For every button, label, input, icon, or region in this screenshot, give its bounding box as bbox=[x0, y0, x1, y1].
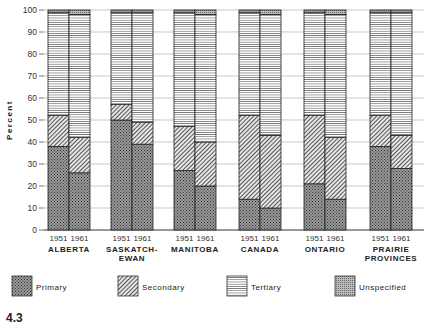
group-label: ALBERTA bbox=[48, 245, 90, 254]
year-label: 1961 bbox=[327, 234, 345, 243]
bar-segment-tertiary bbox=[69, 14, 90, 137]
bar-segment-primary bbox=[391, 168, 412, 230]
bar-segment-secondary bbox=[239, 116, 260, 200]
stacked-bar-chart: 0102030405060708090100 19511961ALBERTA19… bbox=[0, 0, 426, 327]
y-tick-label: 30 bbox=[28, 159, 38, 169]
bar-segment-primary bbox=[370, 146, 391, 230]
bar-segment-secondary bbox=[391, 135, 412, 168]
bar-segment-unspecified bbox=[69, 10, 90, 14]
group-label: MANITOBA bbox=[171, 245, 219, 254]
bar-segment-secondary bbox=[174, 127, 195, 171]
bar-segment-unspecified bbox=[304, 10, 325, 12]
figure-label: 4.3 bbox=[6, 311, 23, 325]
bar-segment-primary bbox=[111, 120, 132, 230]
group-label: SASKATCH- bbox=[106, 245, 158, 254]
bar-segment-primary bbox=[304, 184, 325, 230]
legend-swatch-secondary bbox=[118, 276, 138, 296]
bar-segment-primary bbox=[69, 173, 90, 230]
bar-segment-tertiary bbox=[111, 12, 132, 104]
legend-swatch-unspecified bbox=[335, 276, 355, 296]
legend-swatch-primary bbox=[12, 276, 32, 296]
bar-segment-tertiary bbox=[174, 12, 195, 126]
group-label: EWAN bbox=[119, 254, 145, 263]
bar-segment-secondary bbox=[48, 116, 69, 147]
bar-segment-primary bbox=[325, 199, 346, 230]
legend-label: Tertiary bbox=[251, 283, 281, 292]
year-label: 1951 bbox=[241, 234, 259, 243]
bar-segment-primary bbox=[239, 199, 260, 230]
bar-segment-tertiary bbox=[132, 12, 153, 122]
bar-segment-primary bbox=[48, 146, 69, 230]
bar-segment-unspecified bbox=[111, 10, 132, 12]
y-tick-label: 40 bbox=[28, 137, 38, 147]
bar-segment-secondary bbox=[304, 116, 325, 184]
gridlines bbox=[44, 10, 424, 208]
year-label: 1961 bbox=[393, 234, 411, 243]
y-axis-title: Percent bbox=[5, 100, 14, 140]
y-tick-label: 50 bbox=[28, 115, 38, 125]
bar-segment-tertiary bbox=[239, 12, 260, 115]
bar-segment-secondary bbox=[325, 138, 346, 200]
bar-segment-secondary bbox=[69, 138, 90, 173]
year-label: 1951 bbox=[176, 234, 194, 243]
bar-segment-unspecified bbox=[48, 10, 69, 12]
x-axis-labels: 19511961ALBERTA19511961SASKATCH-EWAN1951… bbox=[48, 234, 417, 263]
bar-segment-tertiary bbox=[391, 12, 412, 135]
year-label: 1961 bbox=[134, 234, 152, 243]
group-label: ONTARIO bbox=[305, 245, 346, 254]
year-label: 1951 bbox=[113, 234, 131, 243]
bar-segment-unspecified bbox=[239, 10, 260, 12]
year-label: 1961 bbox=[197, 234, 215, 243]
legend-label: Secondary bbox=[142, 283, 185, 292]
y-tick-label: 100 bbox=[23, 5, 37, 15]
y-tick-label: 90 bbox=[28, 27, 38, 37]
bar-segment-secondary bbox=[132, 122, 153, 144]
bar-segment-tertiary bbox=[304, 12, 325, 115]
year-label: 1951 bbox=[306, 234, 324, 243]
y-tick-label: 80 bbox=[28, 49, 38, 59]
y-tick-label: 60 bbox=[28, 93, 38, 103]
bar-segment-secondary bbox=[260, 135, 281, 208]
bar-segment-unspecified bbox=[325, 10, 346, 14]
bar-segment-tertiary bbox=[325, 14, 346, 137]
bar-segment-unspecified bbox=[132, 10, 153, 12]
legend: PrimarySecondaryTertiaryUnspecified bbox=[12, 276, 406, 296]
bar-segment-unspecified bbox=[391, 10, 412, 12]
bar-segment-tertiary bbox=[370, 12, 391, 115]
bar-segment-tertiary bbox=[195, 14, 216, 142]
bar-segment-primary bbox=[174, 171, 195, 230]
bar-segment-unspecified bbox=[260, 10, 281, 14]
year-label: 1951 bbox=[50, 234, 68, 243]
bar-segment-primary bbox=[132, 144, 153, 230]
bar-segment-tertiary bbox=[48, 12, 69, 115]
year-label: 1951 bbox=[372, 234, 390, 243]
group-label: PROVINCES bbox=[365, 254, 418, 263]
bar-segment-secondary bbox=[370, 116, 391, 147]
bar-segment-tertiary bbox=[260, 14, 281, 135]
group-label: PRAIRIE bbox=[373, 245, 410, 254]
year-label: 1961 bbox=[262, 234, 280, 243]
y-tick-label: 0 bbox=[32, 225, 37, 235]
bar-segment-primary bbox=[195, 186, 216, 230]
legend-label: Unspecified bbox=[359, 283, 406, 292]
bar-segment-unspecified bbox=[195, 10, 216, 14]
bar-segment-unspecified bbox=[174, 10, 195, 12]
bar-segment-unspecified bbox=[370, 10, 391, 12]
legend-swatch-tertiary bbox=[227, 276, 247, 296]
group-label: CANADA bbox=[241, 245, 279, 254]
bar-segment-primary bbox=[260, 208, 281, 230]
y-tick-label: 70 bbox=[28, 71, 38, 81]
bar-segment-secondary bbox=[111, 105, 132, 120]
bar-segment-secondary bbox=[195, 142, 216, 186]
legend-label: Primary bbox=[36, 283, 67, 292]
y-tick-label: 10 bbox=[28, 203, 38, 213]
y-tick-label: 20 bbox=[28, 181, 38, 191]
year-label: 1961 bbox=[71, 234, 89, 243]
